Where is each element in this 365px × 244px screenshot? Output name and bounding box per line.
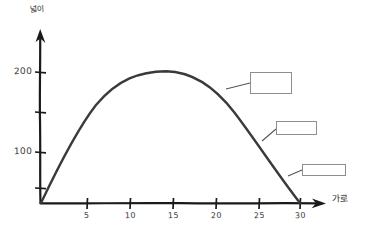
x-tick-label-20: 20 <box>211 211 222 220</box>
y-tick-100 <box>35 152 46 153</box>
callout-leader-1 <box>226 83 250 89</box>
x-tick-label-25: 25 <box>254 211 265 220</box>
callout-box-3[interactable] <box>302 164 346 176</box>
x-tick-label-15: 15 <box>168 211 179 220</box>
callout-box-1[interactable] <box>250 72 292 94</box>
callout-leader-3 <box>288 170 302 176</box>
y-axis-title: 넓이 <box>30 6 44 14</box>
x-tick-25 <box>259 198 260 209</box>
callout-box-2[interactable] <box>276 121 317 135</box>
y-tick-label-100: 100 <box>14 146 32 156</box>
x-tick-20 <box>216 198 217 209</box>
y-tick-150 <box>35 112 46 113</box>
y-tick-50 <box>35 188 46 189</box>
x-tick-10 <box>130 198 131 209</box>
x-tick-5 <box>87 198 88 209</box>
x-tick-label-30: 30 <box>295 211 306 220</box>
y-axis-line <box>40 36 41 203</box>
y-tick-label-200: 200 <box>14 66 32 76</box>
chart-canvas: 넓이 가로 200 100 5 10 15 20 25 30 <box>0 0 365 244</box>
callout-leader-2 <box>262 129 276 141</box>
x-tick-label-10: 10 <box>125 211 136 220</box>
x-axis-title: 가로 <box>332 192 349 206</box>
x-tick-label-5: 5 <box>84 211 90 220</box>
y-tick-200 <box>35 72 46 73</box>
x-tick-15 <box>173 198 174 209</box>
